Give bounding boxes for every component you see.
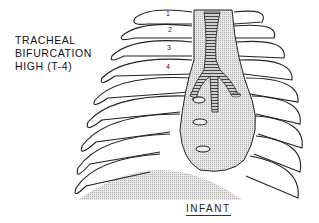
svg-text:2: 2 [168,26,172,33]
left-ribs [75,10,192,194]
label-line-2: BIFURCATION [15,47,92,60]
figure: 1 2 3 4 TRACHEAL BIFURCATION HIGH (T-4) … [0,0,319,223]
rib-numbers: 1 2 3 4 [166,10,172,70]
diaphragm [78,170,242,200]
label-line-1: TRACHEAL [15,34,92,47]
tracheal-bifurcation-label: TRACHEAL BIFURCATION HIGH (T-4) [15,34,92,73]
svg-text:4: 4 [166,63,170,70]
label-line-3: HIGH (T-4) [15,60,92,73]
svg-text:3: 3 [167,44,171,51]
figure-caption: INFANT [186,203,231,216]
svg-text:1: 1 [166,10,170,17]
